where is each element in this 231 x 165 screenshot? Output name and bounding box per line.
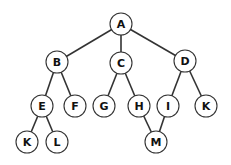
node-label: F [71,100,79,113]
node-g: G [93,95,115,117]
node-label: L [53,136,60,149]
node-label: B [53,56,61,69]
node-k1: K [16,131,38,153]
node-c: C [110,52,132,74]
node-d: D [174,50,196,72]
node-label: K [23,136,32,149]
node-a: A [110,13,132,35]
node-e: E [31,95,53,117]
node-label: K [202,100,211,113]
node-label: I [166,100,170,113]
node-label: M [151,136,162,149]
node-k2: K [195,95,217,117]
node-label: H [134,100,143,113]
node-i: I [157,95,179,117]
node-f: F [64,95,86,117]
node-label: D [180,55,189,68]
node-label: A [117,18,126,31]
edges-group [27,24,206,142]
nodes-group: ABCDEFGHIKKLM [16,13,217,153]
node-label: E [38,100,46,113]
node-label: C [117,57,125,70]
node-l: L [46,131,68,153]
node-b: B [46,51,68,73]
node-label: G [99,100,108,113]
tree-diagram: ABCDEFGHIKKLM [0,0,231,165]
node-h: H [128,95,150,117]
node-m: M [145,131,167,153]
